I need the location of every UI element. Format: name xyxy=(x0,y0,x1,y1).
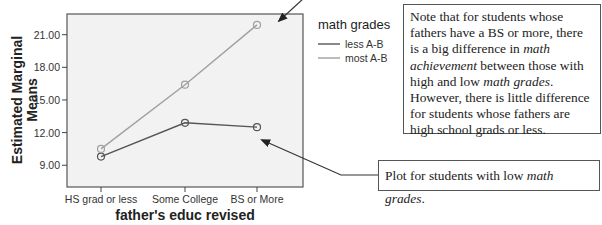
x-tick-label: Some College xyxy=(152,193,218,205)
y-axis-label-line2: Means xyxy=(24,78,40,122)
note-text: Plot for students with low xyxy=(385,168,527,183)
legend-label: most A-B xyxy=(345,52,388,64)
annotation-low-grades-note: Plot for students with low math grades. xyxy=(378,160,600,191)
note-italic: math grades xyxy=(483,74,550,89)
x-axis-label: father's educ revised xyxy=(115,207,255,223)
x-tick-label: BS or More xyxy=(230,193,283,205)
y-tick-label: 12.00 xyxy=(34,127,60,139)
legend-label: less A-B xyxy=(345,38,384,50)
x-axis: HS grad or lessSome CollegeBS or More xyxy=(65,187,284,205)
y-tick-label: 21.00 xyxy=(34,29,60,41)
annotation-main-note: Note that for students whose fathers hav… xyxy=(403,4,601,134)
plot-area xyxy=(67,14,303,187)
y-tick-label: 9.00 xyxy=(40,159,61,171)
x-tick-label: HS grad or less xyxy=(65,193,137,205)
y-tick-label: 18.00 xyxy=(34,61,60,73)
y-axis-label-line1: Estimated Marginal xyxy=(9,36,25,164)
note-text: Note that for students whose fathers hav… xyxy=(410,9,583,56)
note-text: . xyxy=(421,191,424,206)
legend-title: math grades xyxy=(318,17,391,32)
legend: math gradesless A-Bmost A-B xyxy=(318,17,391,64)
